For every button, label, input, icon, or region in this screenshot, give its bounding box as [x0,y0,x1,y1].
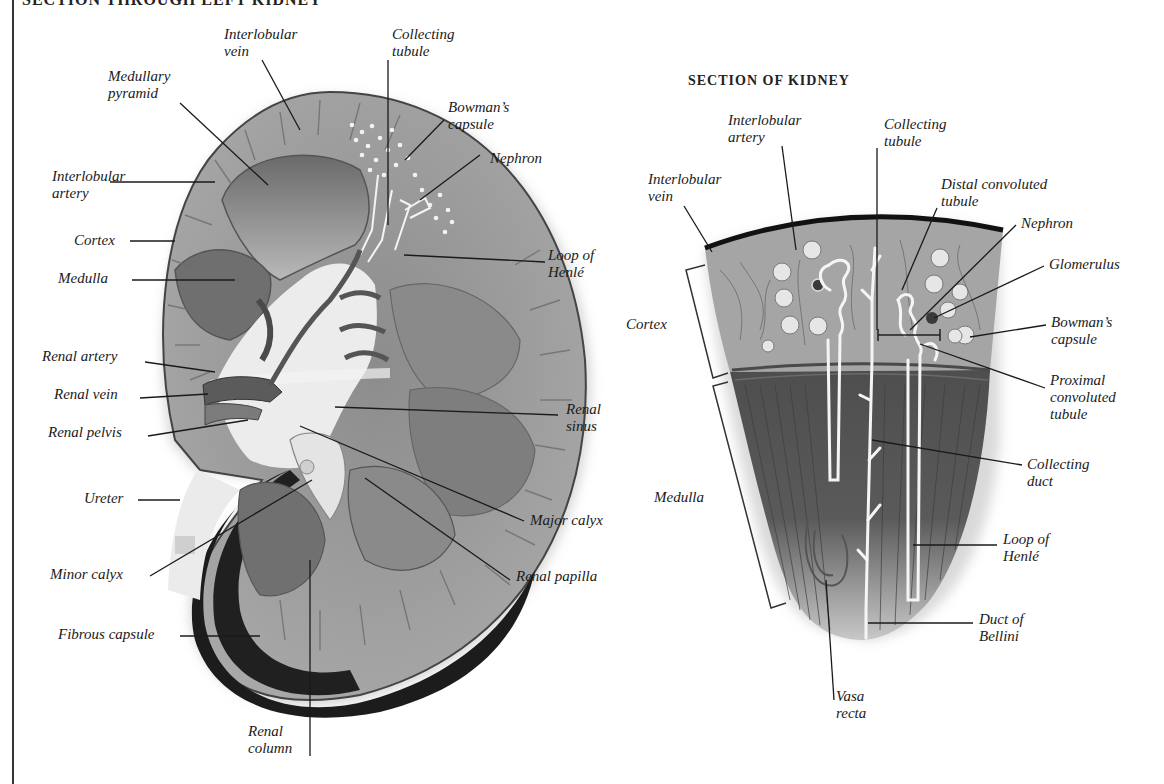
label-line: tubule [941,193,1047,210]
label-renal-sinus: Renal sinus [566,401,601,435]
label-renal-pelvis: Renal pelvis [48,424,122,441]
label-collecting-tubule: Collecting tubule [392,26,455,60]
label-line: artery [52,185,125,202]
label-line: vein [648,188,721,205]
label-line: tubule [884,133,947,150]
label-interlobular-artery-right: Interlobular artery [728,112,801,146]
label-renal-vein: Renal vein [54,386,118,403]
label-line: Renal [248,723,292,740]
label-cortex-right: Cortex [626,316,667,333]
label-line: Collecting [392,26,455,43]
label-interlobular-vein-right: Interlobular vein [648,171,721,205]
label-line: Medullary [108,68,170,85]
label-line: column [248,740,292,757]
label-collecting-tubule-right: Collecting tubule [884,116,947,150]
label-line: pyramid [108,85,170,102]
label-loop-of-henle-right: Loop of Henlé [1003,531,1049,565]
label-renal-papilla: Renal papilla [516,568,597,585]
label-line: Bowman’s [448,99,509,116]
label-line: Interlobular [648,171,721,188]
label-renal-column: Renal column [248,723,292,757]
label-nephron-right: Nephron [1021,215,1073,232]
label-line: convoluted [1050,389,1116,406]
label-line: sinus [566,418,601,435]
left-kidney-drawing [162,92,590,718]
label-nephron: Nephron [490,150,542,167]
label-line: Henlé [1003,548,1049,565]
label-line: Interlobular [52,168,125,185]
label-distal-convoluted-tubule: Distal convoluted tubule [941,176,1047,210]
kidney-illustration [0,0,1164,784]
label-major-calyx: Major calyx [530,512,603,529]
label-duct-of-bellini: Duct of Bellini [979,611,1024,645]
label-ureter: Ureter [84,490,123,507]
label-line: Henlé [548,264,594,281]
label-line: duct [1027,473,1090,490]
label-glomerulus: Glomerulus [1049,256,1120,273]
label-medulla: Medulla [58,270,108,287]
label-line: capsule [448,116,509,133]
label-loop-of-henle: Loop of Henlé [548,247,594,281]
label-interlobular-artery: Interlobular artery [52,168,125,202]
label-medulla-right: Medulla [654,489,704,506]
label-line: Bowman’s [1051,314,1112,331]
label-bowmans-capsule: Bowman’s capsule [448,99,509,133]
right-kidney-section-drawing [686,217,1003,640]
label-minor-calyx: Minor calyx [50,566,123,583]
label-line: recta [836,705,866,722]
label-line: Interlobular [728,112,801,129]
label-line: vein [224,43,297,60]
label-line: capsule [1051,331,1112,348]
label-line: tubule [1050,406,1116,423]
label-cortex: Cortex [74,232,115,249]
label-line: Loop of [1003,531,1049,548]
label-line: Renal [566,401,601,418]
label-interlobular-vein: Interlobular vein [224,26,297,60]
label-line: Distal convoluted [941,176,1047,193]
label-proximal-convoluted-tubule: Proximal convoluted tubule [1050,372,1116,423]
label-medullary-pyramid: Medullary pyramid [108,68,170,102]
label-bowmans-capsule-right: Bowman’s capsule [1051,314,1112,348]
label-line: tubule [392,43,455,60]
label-line: Interlobular [224,26,297,43]
label-line: Collecting [884,116,947,133]
label-line: Duct of [979,611,1024,628]
label-line: Loop of [548,247,594,264]
label-line: Vasa [836,688,866,705]
label-fibrous-capsule: Fibrous capsule [58,626,155,643]
label-line: Bellini [979,628,1024,645]
label-renal-artery: Renal artery [42,348,117,365]
label-line: Proximal [1050,372,1116,389]
label-collecting-duct: Collecting duct [1027,456,1090,490]
label-line: Collecting [1027,456,1090,473]
label-vasa-recta: Vasa recta [836,688,866,722]
label-line: artery [728,129,801,146]
